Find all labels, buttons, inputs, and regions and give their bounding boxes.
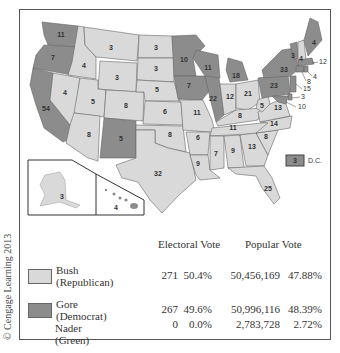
svg-text:3: 3 <box>109 44 113 51</box>
nader-ev: 0 <box>156 318 178 330</box>
svg-text:4: 4 <box>312 39 316 46</box>
svg-text:3: 3 <box>291 52 295 59</box>
svg-text:5: 5 <box>91 98 95 105</box>
svg-text:33: 33 <box>280 66 288 73</box>
svg-text:13: 13 <box>274 104 282 111</box>
svg-text:4: 4 <box>313 73 317 80</box>
svg-text:8: 8 <box>87 131 91 138</box>
svg-text:5: 5 <box>119 135 123 142</box>
svg-text:22: 22 <box>209 95 217 102</box>
svg-text:13: 13 <box>248 143 256 150</box>
svg-text:3: 3 <box>154 65 158 72</box>
bush-pop-pct: 47.88% <box>286 269 322 281</box>
svg-text:4: 4 <box>63 89 67 96</box>
dc-label: D.C. <box>308 157 322 164</box>
svg-text:4: 4 <box>299 55 303 62</box>
candidate-label: Nader(Green) <box>55 322 89 346</box>
svg-text:12: 12 <box>226 93 234 100</box>
nader-pop-pct: 2.72% <box>286 318 322 330</box>
state-fl <box>228 166 280 204</box>
state-ct <box>296 66 304 72</box>
bush-pop: 50,456,169 <box>230 269 280 281</box>
svg-text:10: 10 <box>298 103 306 110</box>
gore-ev-pct: 49.6% <box>180 303 212 315</box>
gore-pop-pct: 48.39% <box>286 303 322 315</box>
state-de <box>288 94 292 100</box>
state-ak <box>40 172 80 208</box>
svg-text:25: 25 <box>264 185 272 192</box>
svg-text:5: 5 <box>260 102 264 109</box>
svg-text:11: 11 <box>204 64 212 71</box>
gore-ev: 267 <box>156 303 178 315</box>
svg-text:21: 21 <box>244 90 252 97</box>
bush-ev-pct: 50.4% <box>180 269 212 281</box>
svg-text:54: 54 <box>42 105 50 112</box>
svg-text:8: 8 <box>264 133 268 140</box>
svg-text:3: 3 <box>301 93 305 100</box>
state-nj <box>290 76 296 92</box>
svg-text:7: 7 <box>187 82 191 89</box>
svg-text:8: 8 <box>168 131 172 138</box>
state-ri <box>304 66 308 72</box>
state-nm <box>100 118 136 158</box>
svg-text:11: 11 <box>193 109 201 116</box>
svg-text:4: 4 <box>114 204 118 211</box>
state-me <box>304 18 322 56</box>
svg-text:11: 11 <box>57 31 65 38</box>
svg-text:3: 3 <box>60 193 64 200</box>
gore-pop: 50,996,116 <box>230 303 280 315</box>
svg-text:7: 7 <box>51 54 55 61</box>
svg-text:3: 3 <box>293 157 297 164</box>
svg-text:5: 5 <box>155 86 159 93</box>
svg-text:18: 18 <box>232 72 240 79</box>
svg-text:14: 14 <box>270 120 278 127</box>
svg-text:9: 9 <box>231 147 235 154</box>
svg-text:3: 3 <box>115 74 119 81</box>
svg-text:6: 6 <box>196 134 200 141</box>
svg-text:9: 9 <box>196 160 200 167</box>
state-ia <box>174 76 210 100</box>
svg-text:7: 7 <box>214 150 218 157</box>
republican-swatch <box>28 269 52 284</box>
svg-text:15: 15 <box>303 85 311 92</box>
legend-row-bush: Bush(Republican) <box>28 258 113 294</box>
candidate-label: Bush(Republican) <box>56 264 113 288</box>
legend-row-nader: Nader(Green) <box>28 305 89 345</box>
svg-text:11: 11 <box>229 124 237 131</box>
svg-text:12: 12 <box>319 58 327 65</box>
svg-text:8: 8 <box>238 112 242 119</box>
svg-text:4: 4 <box>82 62 86 69</box>
svg-text:10: 10 <box>180 56 188 63</box>
svg-text:6: 6 <box>163 108 167 115</box>
state-mo <box>178 100 215 132</box>
nader-pop: 2,783,728 <box>230 318 280 330</box>
copyright-credit: © Cengage Learning 2013 <box>2 234 13 340</box>
svg-text:8: 8 <box>124 102 128 109</box>
svg-text:32: 32 <box>154 170 162 177</box>
state-hi <box>105 189 138 209</box>
electoral-vote-header: Electoral Vote <box>158 238 220 250</box>
svg-text:23: 23 <box>270 82 278 89</box>
svg-text:3: 3 <box>154 44 158 51</box>
bush-ev: 271 <box>156 269 178 281</box>
nader-ev-pct: 0.0% <box>180 318 212 330</box>
svg-text:8: 8 <box>307 78 311 85</box>
popular-vote-header: Popular Vote <box>245 238 302 250</box>
